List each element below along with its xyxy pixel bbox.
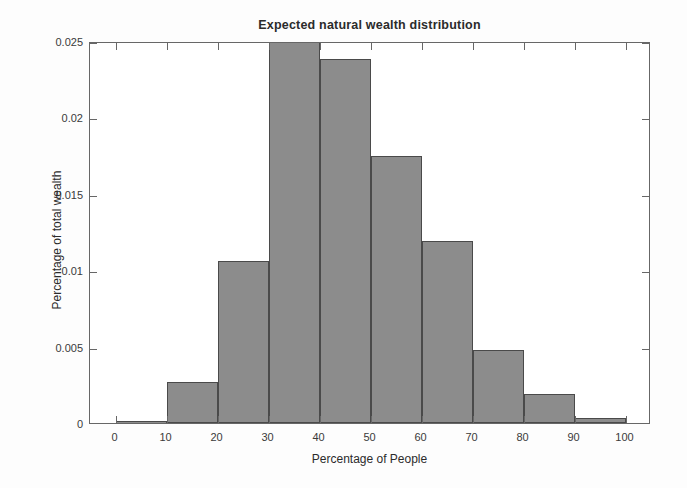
histogram-bar [371, 156, 422, 423]
x-tick-mark [269, 416, 270, 423]
x-tick-mark-top [626, 43, 627, 50]
chart-title: Expected natural wealth distribution [89, 18, 650, 32]
x-tick-mark-top [524, 43, 525, 50]
x-tick-mark [524, 416, 525, 423]
x-tick-mark-top [167, 43, 168, 50]
x-tick-label: 70 [465, 431, 477, 443]
x-tick-label: 10 [159, 431, 171, 443]
histogram-bar [524, 394, 575, 423]
x-tick-mark-top [269, 43, 270, 50]
y-tick-mark [90, 119, 97, 120]
y-axis-title: Percentage of total wealth [50, 90, 64, 390]
y-tick-mark-right [642, 272, 649, 273]
x-tick-mark-top [473, 43, 474, 50]
x-tick-label: 20 [210, 431, 222, 443]
x-tick-label: 40 [312, 431, 324, 443]
histogram-bar [473, 350, 524, 423]
x-tick-label: 80 [516, 431, 528, 443]
histogram-bar [116, 421, 167, 423]
x-tick-mark-top [320, 43, 321, 50]
bars-layer [90, 43, 649, 423]
x-tick-mark-top [371, 43, 372, 50]
y-tick-mark-right [642, 43, 649, 44]
histogram-bar [218, 261, 269, 423]
histogram-bar [167, 382, 218, 423]
histogram-bar [575, 418, 626, 423]
x-tick-mark [116, 416, 117, 423]
x-tick-label: 60 [414, 431, 426, 443]
histogram-bar [269, 42, 320, 423]
y-tick-label: 0 [77, 418, 83, 430]
x-tick-mark-top [218, 43, 219, 50]
x-tick-label: 30 [261, 431, 273, 443]
y-tick-mark [90, 272, 97, 273]
x-tick-mark [626, 416, 627, 423]
x-axis-tick-labels: 0102030405060708090100 [89, 431, 650, 447]
y-tick-mark-right [642, 196, 649, 197]
histogram-bar [320, 59, 371, 423]
x-tick-mark [422, 416, 423, 423]
x-tick-label: 0 [111, 431, 117, 443]
x-tick-mark [575, 416, 576, 423]
x-tick-mark [473, 416, 474, 423]
histogram-bar [422, 241, 473, 423]
histogram-figure: Expected natural wealth distribution 00.… [0, 0, 687, 488]
x-tick-label: 90 [567, 431, 579, 443]
x-tick-mark [371, 416, 372, 423]
y-tick-mark-right [642, 119, 649, 120]
x-tick-label: 50 [363, 431, 375, 443]
x-tick-mark [320, 416, 321, 423]
y-tick-label: 0.025 [55, 36, 83, 48]
y-tick-mark [90, 43, 97, 44]
y-tick-mark-right [642, 349, 649, 350]
x-tick-label: 100 [615, 431, 633, 443]
x-tick-mark [167, 416, 168, 423]
x-axis-title: Percentage of People [89, 452, 650, 466]
x-tick-mark-top [422, 43, 423, 50]
x-tick-mark [218, 416, 219, 423]
y-tick-mark [90, 196, 97, 197]
y-tick-label: 0.01 [62, 265, 83, 277]
plot-area [89, 42, 650, 424]
x-tick-mark-top [116, 43, 117, 50]
y-tick-mark [90, 349, 97, 350]
y-tick-label: 0.02 [62, 112, 83, 124]
x-tick-mark-top [575, 43, 576, 50]
